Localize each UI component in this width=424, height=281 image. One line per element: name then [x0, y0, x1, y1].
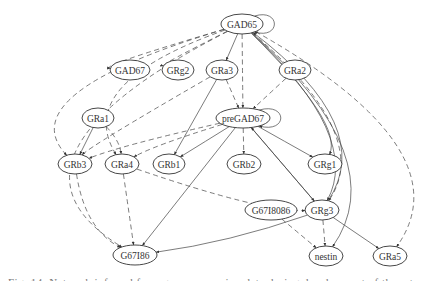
node-label: GRb3 [64, 160, 87, 170]
edge-GRb3-to-G67I86 [77, 174, 121, 248]
node-G67I8086: G67I8086 [245, 200, 297, 220]
nodes-layer: GAD65GAD67GRg2GRa3GRa2GRa1preGAD67GRb3GR… [58, 14, 407, 266]
node-GRa3: GRa3 [206, 60, 238, 80]
node-label: GRa4 [111, 160, 133, 170]
node-GRb2: GRb2 [227, 154, 261, 174]
network-diagram: GAD65GAD67GRg2GRa3GRa2GRa1preGAD67GRb3GR… [0, 0, 424, 281]
edge-GAD65-to-GRb3 [54, 29, 224, 155]
edge-preGAD67-to-GRb3 [89, 123, 220, 158]
node-label: GRa5 [379, 252, 401, 262]
node-label: GRg2 [167, 66, 190, 76]
edge-GRg3-to-GRa5 [333, 218, 379, 249]
node-GRg2: GRg2 [162, 60, 194, 80]
node-preGAD67: preGAD67 [216, 108, 270, 128]
edge-GAD65-to-G67I86 [70, 31, 228, 247]
node-GRa4: GRa4 [105, 154, 139, 174]
figure-caption: Fig. 14. Network inferred from gene expr… [8, 272, 418, 281]
node-GRa1: GRa1 [82, 108, 114, 128]
edge-GAD65-to-GRg1 [251, 33, 331, 154]
edge-GRg3-to-G67I86 [156, 215, 307, 252]
node-label: nestin [315, 252, 338, 262]
node-label: GAD67 [115, 66, 145, 76]
edge-preGAD67-to-G67I86 [142, 128, 235, 246]
edge-GRa3-to-preGAD67 [226, 80, 239, 109]
node-nestin: nestin [309, 246, 343, 266]
node-GRg1: GRg1 [308, 154, 342, 174]
node-label: GRa3 [211, 66, 233, 76]
edges-layer [54, 15, 413, 252]
edge-preGAD67-to-GRb2 [243, 128, 244, 154]
edge-GRa3-to-GRb1 [174, 79, 216, 154]
edge-GAD65-to-GRa3 [226, 34, 238, 61]
node-label: G67I8086 [252, 206, 291, 216]
node-label: preGAD67 [222, 114, 264, 124]
node-GRb3: GRb3 [58, 154, 92, 174]
node-label: GRg3 [311, 206, 334, 216]
edge-GAD65-to-preGAD67 [242, 34, 243, 108]
node-label: GRa1 [87, 114, 109, 124]
node-label: G67I86 [120, 251, 149, 261]
edge-preGAD67-to-GRg1 [258, 126, 313, 157]
node-GRg3: GRg3 [305, 200, 339, 220]
edge-GRa2-to-preGAD67 [253, 78, 286, 108]
node-label: GRb1 [158, 160, 181, 170]
edge-GRg3-to-nestin [323, 220, 325, 246]
edge-GRa4-to-G67I86 [123, 174, 133, 245]
node-label: GRg1 [314, 160, 337, 170]
node-label: GRb2 [233, 160, 256, 170]
node-GRa5: GRa5 [373, 246, 407, 266]
node-GAD67: GAD67 [110, 60, 150, 80]
node-G67I86: G67I86 [113, 245, 157, 265]
node-GRb1: GRb1 [153, 154, 185, 174]
node-label: GRa2 [284, 66, 306, 76]
edge-G67I8086-to-nestin [282, 219, 316, 248]
edge-GRa1-to-GRb3 [80, 128, 93, 155]
node-GRa2: GRa2 [279, 60, 311, 80]
node-GAD65: GAD65 [221, 14, 263, 34]
edge-preGAD67-to-GRa4 [134, 124, 222, 156]
node-label: GAD65 [227, 20, 257, 30]
